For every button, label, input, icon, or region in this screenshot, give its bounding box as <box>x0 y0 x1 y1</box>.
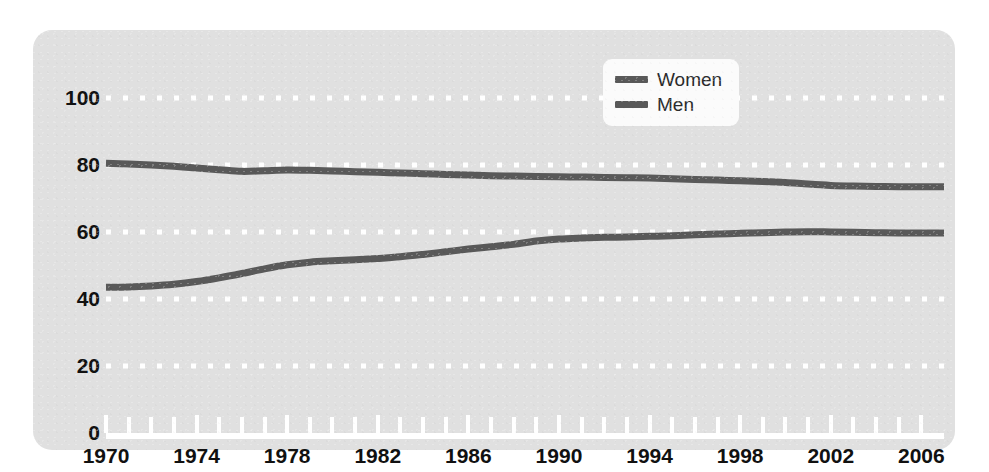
y-tick-label: 100 <box>65 86 100 110</box>
legend-swatch-icon <box>615 76 648 83</box>
series-line-men <box>106 232 944 288</box>
y-axis-labels: 020406080100 <box>33 30 100 450</box>
legend-swatch-icon <box>615 101 648 108</box>
x-tick-label: 1978 <box>264 444 311 468</box>
y-tick-label: 20 <box>77 354 100 378</box>
y-tick-label: 0 <box>88 421 100 445</box>
x-tick-label: 2006 <box>898 444 945 468</box>
chart-legend: WomenMen <box>603 59 739 126</box>
x-tick-label: 1986 <box>445 444 492 468</box>
legend-label: Women <box>657 70 722 89</box>
x-tick-label: 1998 <box>717 444 764 468</box>
x-tick-label: 2002 <box>807 444 854 468</box>
legend-item-men[interactable]: Men <box>615 92 727 117</box>
legend-label: Men <box>657 95 694 114</box>
series-line-women <box>106 163 944 186</box>
x-tick-label: 1982 <box>354 444 401 468</box>
x-tick-label: 1974 <box>173 444 220 468</box>
y-tick-label: 80 <box>77 153 100 177</box>
legend-item-women[interactable]: Women <box>615 67 727 92</box>
y-tick-label: 60 <box>77 220 100 244</box>
x-tick-label: 1990 <box>536 444 583 468</box>
chart-panel: 020406080100 197019741978198219861990199… <box>33 30 955 450</box>
plot-area: 1970197419781982198619901994199820022006 <box>106 30 955 450</box>
series-lines <box>106 30 955 450</box>
x-tick-label: 1970 <box>83 444 130 468</box>
y-tick-label: 40 <box>77 287 100 311</box>
x-tick-label: 1994 <box>626 444 673 468</box>
